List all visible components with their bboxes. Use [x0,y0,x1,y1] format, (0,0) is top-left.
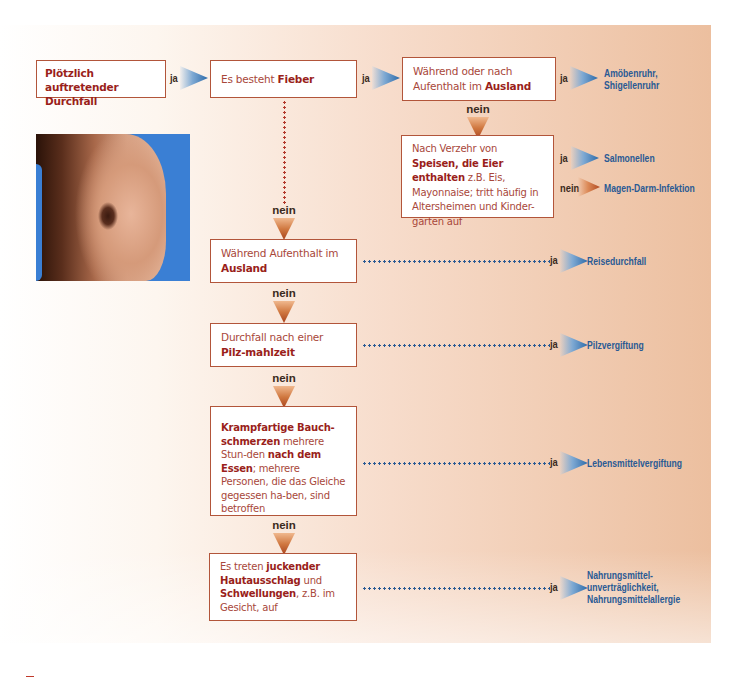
rash-text-2: und [301,575,322,586]
eggs-node: Nach Verzehr von Speisen, die Eier entha… [401,135,554,218]
result-salmonella: Salmonellen [604,153,655,165]
eggs-no-label: nein [560,182,579,194]
result-gastroenteritis: Magen-Darm-Infektion [604,183,695,195]
cramps-yes-label: ja [550,456,558,468]
rash-yes-connector [362,587,550,590]
cramps-yes-connector [362,462,550,465]
abroad-node: Während Aufenthalt im Ausland [210,239,357,283]
abroad-fever-yes-label: ja [560,72,568,84]
rash-text-1: Es treten [220,561,266,572]
result-line: Amöbenruhr, [604,68,659,80]
abroad-emphasis: Ausland [221,262,267,274]
result-mushroom-poisoning: Pilzvergiftung [587,340,644,352]
abroad-fever-node: Während oder nach Aufenthalt im Ausland [402,57,556,101]
fever-node: Es besteht Fieber [210,60,357,98]
abdomen-photo [36,134,190,281]
start-yes-label: ja [170,72,178,84]
fever-yes-label: ja [362,72,370,84]
result-travelers-diarrhea: Reisedurchfall [587,256,646,268]
cramps-no-label: nein [264,519,304,531]
mushroom-no-label: nein [264,372,304,384]
abroad-text: Während Aufenthalt im [221,247,338,259]
result-line: Nahrungsmittel- [587,570,680,582]
mushroom-text: Durchfall nach einer [221,331,323,343]
rash-yes-label: ja [550,581,558,593]
result-line: unverträglichkeit, [587,582,680,594]
torso-shape [36,134,166,281]
fever-no-label: nein [264,204,304,216]
eggs-text-1: Nach Verzehr von [412,143,497,154]
fever-emphasis: Fieber [278,73,315,85]
cramps-node: Krampfartige Bauch-schmerzen mehrere Stu… [210,406,357,516]
fever-text: Es besteht [221,73,278,85]
abroad-fever-no-label: nein [458,103,498,115]
result-amoebic-dysentery: Amöbenruhr, Shigellenruhr [604,68,659,92]
result-line: Shigellenruhr [604,80,659,92]
mushroom-emphasis: Pilz-mahlzeit [221,346,295,358]
mushroom-node: Durchfall nach einer Pilz-mahlzeit [210,323,357,367]
photo-background-strip [36,164,42,281]
eggs-yes-label: ja [560,152,568,164]
abroad-no-label: nein [264,287,304,299]
abroad-fever-emphasis: Ausland [485,80,531,92]
rash-emphasis-2: Schwellungen [220,588,296,599]
result-line: Nahrungsmittelallergie [587,594,680,606]
mushroom-yes-label: ja [550,338,558,350]
fever-no-connector [283,100,286,204]
rash-node: Es treten juckender Hautausschlag und Sc… [209,553,357,621]
abroad-yes-label: ja [550,254,558,266]
mushroom-yes-connector [362,344,550,347]
start-node: Plötzlich auftretender Durchfall [36,60,166,98]
result-food-poisoning: Lebensmittelvergiftung [587,458,682,470]
result-food-intolerance: Nahrungsmittel- unverträglichkeit, Nahru… [587,570,680,606]
abroad-yes-connector [362,260,550,263]
